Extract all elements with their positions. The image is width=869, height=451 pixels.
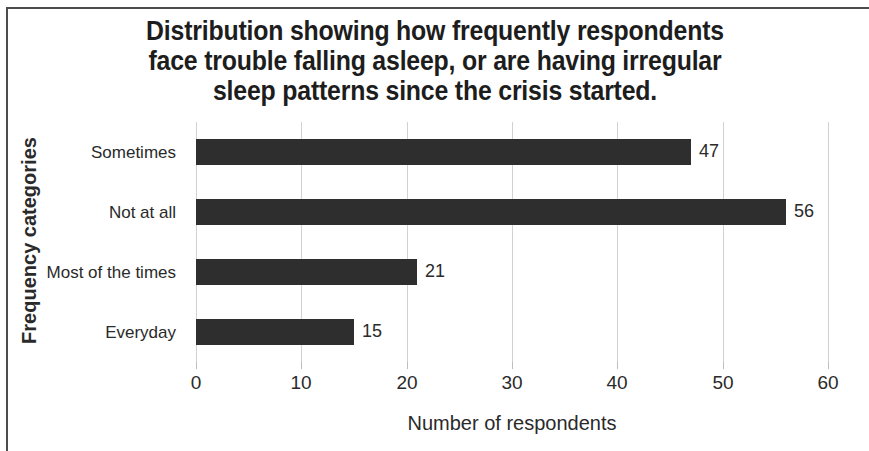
x-tick-mark-60 (828, 362, 829, 369)
bar-row-most-of-the-times: 21 (196, 242, 828, 302)
x-tick-label-30: 30 (482, 372, 542, 394)
bar-value-sometimes: 47 (699, 138, 719, 164)
chart-title-line-1: Distribution showing how frequently resp… (72, 16, 799, 46)
plot-area: 47 56 21 15 (196, 122, 828, 362)
chart-title-line-3: sleep patterns since the crisis started. (72, 76, 799, 106)
x-tick-mark-10 (301, 362, 302, 369)
bar-value-most-of-the-times: 21 (425, 258, 445, 284)
chart-title-line-2: face trouble falling asleep, or are havi… (72, 46, 799, 76)
chart-title: Distribution showing how frequently resp… (72, 16, 799, 106)
bar-row-everyday: 15 (196, 302, 828, 362)
bar-row-sometimes: 47 (196, 122, 828, 182)
x-tick-mark-30 (512, 362, 513, 369)
gridline-60 (828, 122, 829, 362)
x-tick-mark-0 (196, 362, 197, 369)
page-frame-top-rule (6, 7, 869, 9)
y-axis-label-not-at-all: Not at all (0, 203, 176, 223)
x-tick-mark-20 (407, 362, 408, 369)
chart-page: Distribution showing how frequently resp… (0, 0, 869, 451)
bar-sometimes[interactable] (196, 139, 691, 165)
x-tick-label-10: 10 (271, 372, 331, 394)
bar-row-not-at-all: 56 (196, 182, 828, 242)
bar-most-of-the-times[interactable] (196, 259, 417, 285)
x-tick-label-0: 0 (166, 372, 226, 394)
y-axis-label-everyday: Everyday (0, 323, 176, 343)
x-tick-label-60: 60 (798, 372, 858, 394)
x-tick-label-50: 50 (693, 372, 753, 394)
x-tick-mark-40 (617, 362, 618, 369)
x-tick-label-40: 40 (587, 372, 647, 394)
y-axis-label-most-of-the-times: Most of the times (0, 263, 176, 283)
x-tick-mark-50 (723, 362, 724, 369)
x-axis-title: Number of respondents (196, 412, 828, 435)
bar-not-at-all[interactable] (196, 199, 786, 225)
bar-everyday[interactable] (196, 319, 354, 345)
bar-value-not-at-all: 56 (794, 198, 814, 224)
y-axis-label-sometimes: Sometimes (0, 143, 176, 163)
bar-value-everyday: 15 (362, 318, 382, 344)
x-tick-label-20: 20 (377, 372, 437, 394)
y-axis-category-labels: Sometimes Not at all Most of the times E… (0, 122, 186, 362)
